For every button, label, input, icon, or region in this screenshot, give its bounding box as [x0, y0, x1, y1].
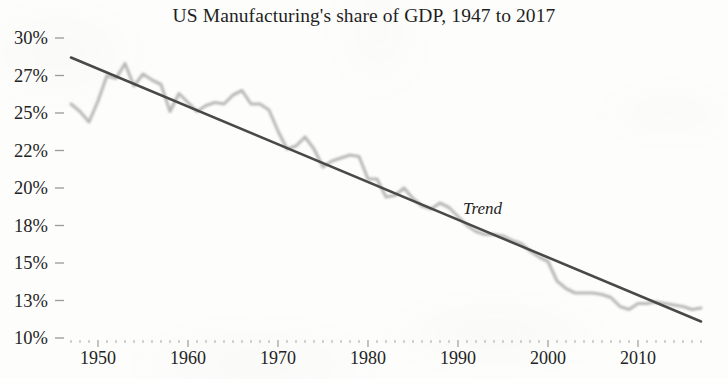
x-axis-minor-ticks: [71, 340, 701, 347]
x-tick-label: 1990: [440, 348, 476, 369]
x-tick-label: 1980: [350, 348, 386, 369]
data-series-line: [71, 64, 701, 310]
x-tick-label: 1970: [260, 348, 296, 369]
plot-svg: [0, 0, 728, 379]
chart-figure: US Manufacturing's share of GDP, 1947 to…: [0, 0, 728, 379]
x-tick-label: 1960: [170, 348, 206, 369]
x-tick-label: 1950: [80, 348, 116, 369]
trend-annotation-label: Trend: [463, 199, 502, 219]
x-tick-label: 2010: [620, 348, 656, 369]
x-tick-label: 2000: [530, 348, 566, 369]
trend-line: [71, 58, 701, 322]
plot-area: 1950196019701980199020002010 Trend: [0, 0, 728, 379]
y-axis-ticks: [55, 38, 64, 338]
